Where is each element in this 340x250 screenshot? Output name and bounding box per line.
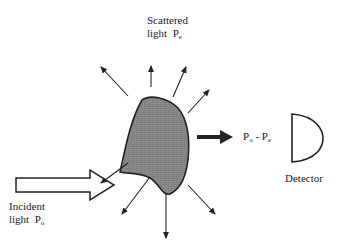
- transmitted-power-label: Po - Pe: [243, 130, 271, 147]
- scattered-light-label: Scattered light Pe: [147, 14, 188, 44]
- incident-arrow: [16, 170, 114, 200]
- particle: [120, 97, 189, 194]
- detector-label: Detector: [285, 172, 323, 185]
- incident-light-label: Incident light Po: [9, 200, 45, 230]
- detector-icon: [292, 114, 323, 162]
